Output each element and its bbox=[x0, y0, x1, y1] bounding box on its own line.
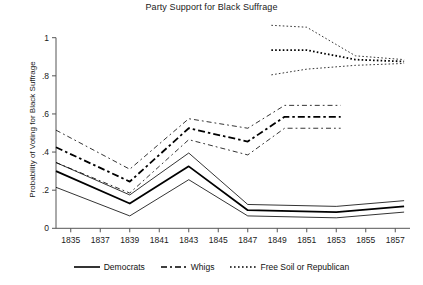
legend-item-whigs: Whigs bbox=[161, 262, 215, 272]
x-tick-label: 1849 bbox=[268, 235, 287, 245]
legend-label-free-soil: Free Soil or Republican bbox=[260, 262, 349, 272]
y-tick-label: 1 bbox=[44, 33, 49, 43]
x-tick-label: 1841 bbox=[150, 235, 169, 245]
series-democrats bbox=[56, 153, 404, 218]
legend-swatch-solid bbox=[74, 263, 100, 271]
chart-container: Party Support for Black Suffrage Probabi… bbox=[0, 0, 423, 285]
data-series-group bbox=[56, 25, 404, 218]
x-tick-label: 1835 bbox=[61, 235, 80, 245]
x-tick-label: 1837 bbox=[91, 235, 110, 245]
y-tick-label: .8 bbox=[42, 71, 49, 81]
plot-area: 0.2.4.6.81 18351837183918411843184518471… bbox=[0, 0, 423, 285]
legend-label-democrats: Democrats bbox=[104, 262, 145, 272]
legend-item-democrats: Democrats bbox=[74, 262, 145, 272]
center-line bbox=[56, 117, 341, 182]
y-tick-label: .2 bbox=[42, 185, 49, 195]
x-tick-label: 1847 bbox=[238, 235, 257, 245]
x-tick-label: 1843 bbox=[179, 235, 198, 245]
series-whigs bbox=[56, 105, 341, 193]
x-tick-label: 1857 bbox=[386, 235, 405, 245]
axes: 0.2.4.6.81 18351837183918411843184518471… bbox=[42, 33, 410, 246]
chart-legend: Democrats Whigs Free Soil or Republican bbox=[0, 262, 423, 272]
x-tick-label: 1839 bbox=[120, 235, 139, 245]
series-free-soil-or-republican bbox=[271, 25, 404, 75]
x-tick-label: 1853 bbox=[327, 235, 346, 245]
legend-item-free-soil: Free Soil or Republican bbox=[230, 262, 349, 272]
ci-lower-band bbox=[271, 63, 404, 74]
y-tick-label: 0 bbox=[44, 223, 49, 233]
y-axis-ticks: 0.2.4.6.81 bbox=[42, 33, 56, 234]
ci-upper-band bbox=[56, 105, 341, 169]
center-line bbox=[271, 50, 404, 61]
legend-swatch-dotted bbox=[230, 263, 256, 271]
x-tick-label: 1851 bbox=[297, 235, 316, 245]
x-tick-label: 1845 bbox=[209, 235, 228, 245]
x-tick-label: 1855 bbox=[356, 235, 375, 245]
legend-swatch-dashed bbox=[161, 263, 187, 271]
ci-lower-band bbox=[56, 128, 341, 193]
legend-label-whigs: Whigs bbox=[191, 262, 215, 272]
x-axis-ticks: 1835183718391841184318451847184918511853… bbox=[61, 228, 405, 245]
y-tick-label: .6 bbox=[42, 109, 49, 119]
y-tick-label: .4 bbox=[42, 147, 49, 157]
ci-upper-band bbox=[271, 25, 404, 59]
ci-upper-band bbox=[56, 153, 404, 206]
